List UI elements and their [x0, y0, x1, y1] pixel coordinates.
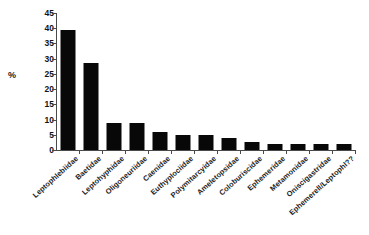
y-tick-label: 20	[30, 85, 54, 94]
bar-slot	[102, 13, 125, 150]
bar-slot	[309, 13, 332, 150]
x-axis-line	[56, 150, 355, 151]
bar-chart-figure: % 454035302520151050 LeptophlebiidaeBaet…	[0, 0, 369, 235]
y-tick-mark	[52, 150, 56, 151]
bar-slot	[194, 13, 217, 150]
x-tick-label: Oniscigastridae	[284, 154, 332, 199]
y-tick-label: 0	[30, 146, 54, 155]
x-tick-label: Metamonidae	[268, 154, 310, 193]
x-tick-label: Oligoneuriidae	[103, 154, 149, 196]
y-tick-label: 30	[30, 54, 54, 63]
bar[interactable]	[175, 135, 190, 150]
x-tick-mark	[309, 150, 310, 154]
bar-slot	[217, 13, 240, 150]
bar[interactable]	[290, 144, 305, 150]
y-tick-mark	[52, 89, 56, 90]
y-tick-label: 25	[30, 70, 54, 79]
bar-slot	[286, 13, 309, 150]
x-tick-mark	[217, 150, 218, 154]
x-tick-mark	[102, 150, 103, 154]
plot-area	[56, 13, 355, 150]
bar[interactable]	[198, 135, 213, 150]
y-tick-mark	[52, 120, 56, 121]
bar-slot	[79, 13, 102, 150]
x-tick-label: Coloburiscidae	[217, 154, 264, 197]
x-tick-label: Leptohyphidae	[79, 154, 125, 197]
bar[interactable]	[244, 142, 259, 150]
x-tick-label: Ephemeridae	[245, 154, 286, 192]
y-tick-mark	[52, 28, 56, 29]
x-tick-mark	[148, 150, 149, 154]
bar[interactable]	[152, 132, 167, 150]
y-axis-tick-labels: 454035302520151050	[30, 10, 54, 155]
y-tick-label: 45	[30, 9, 54, 18]
bar-slot	[171, 13, 194, 150]
y-tick-mark	[52, 43, 56, 44]
bar[interactable]	[106, 123, 121, 150]
x-tick-mark	[125, 150, 126, 154]
bar[interactable]	[83, 63, 98, 150]
y-tick-mark	[52, 59, 56, 60]
y-tick-mark	[52, 13, 56, 14]
x-tick-mark	[171, 150, 172, 154]
y-tick-label: 5	[30, 131, 54, 140]
y-tick-label: 40	[30, 24, 54, 33]
x-tick-label: Caenidae	[140, 154, 171, 183]
bar[interactable]	[336, 144, 351, 150]
y-tick-mark	[52, 74, 56, 75]
bar-slot	[56, 13, 79, 150]
bar-slot	[263, 13, 286, 150]
x-tick-label: Ameletopsidae	[194, 154, 240, 197]
bar[interactable]	[129, 123, 144, 150]
x-tick-label: Baetidae	[73, 154, 103, 182]
x-tick-mark	[79, 150, 80, 154]
bar-slot	[332, 13, 355, 150]
x-tick-mark	[194, 150, 195, 154]
bar-slot	[240, 13, 263, 150]
x-tick-mark	[355, 150, 356, 154]
y-axis-label: %	[8, 70, 16, 80]
bar-slot	[148, 13, 171, 150]
x-tick-label: Polymitarcyidae	[168, 154, 217, 200]
bar-slot	[125, 13, 148, 150]
x-tick-mark	[286, 150, 287, 154]
bar[interactable]	[267, 144, 282, 150]
x-tick-mark	[332, 150, 333, 154]
x-tick-label: Euthyplociidae	[148, 154, 194, 197]
y-tick-label: 10	[30, 115, 54, 124]
x-tick-label: Ephemerell/Leptophl??	[287, 154, 356, 217]
x-tick-mark	[240, 150, 241, 154]
y-tick-label: 15	[30, 100, 54, 109]
y-tick-label: 35	[30, 39, 54, 48]
x-tick-mark	[263, 150, 264, 154]
bar[interactable]	[60, 30, 75, 150]
y-tick-mark	[52, 104, 56, 105]
y-tick-mark	[52, 135, 56, 136]
x-tick-label: Leptophlebiidae	[30, 154, 79, 200]
bar[interactable]	[313, 144, 328, 150]
bar[interactable]	[221, 138, 236, 150]
